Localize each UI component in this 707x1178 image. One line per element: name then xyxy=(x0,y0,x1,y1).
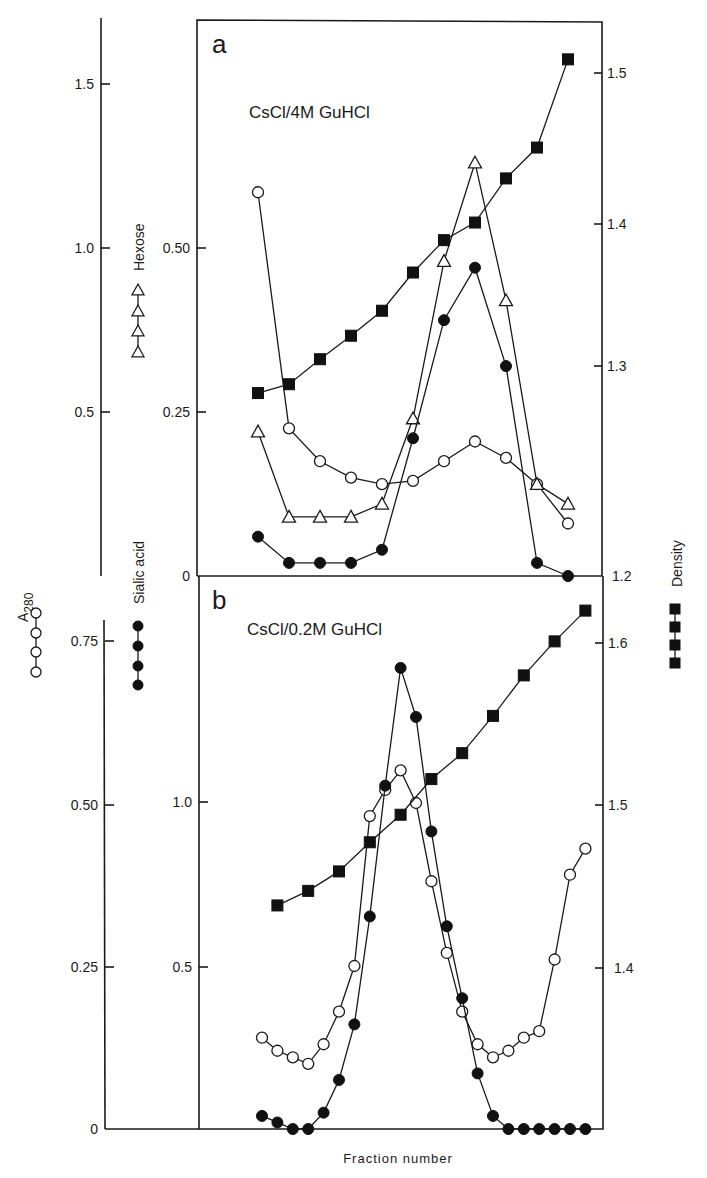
data-point xyxy=(469,156,482,168)
data-point xyxy=(334,1074,345,1085)
data-point xyxy=(272,900,283,911)
data-point xyxy=(457,993,468,1004)
panel-a-density-tick: 1.2 xyxy=(612,568,632,584)
panel-b-a280-tick: 0 xyxy=(90,1121,98,1137)
data-point xyxy=(488,1110,499,1121)
data-point xyxy=(303,1124,314,1135)
data-point xyxy=(315,557,326,568)
series-a280 xyxy=(257,765,591,1069)
data-point xyxy=(580,843,591,854)
data-point xyxy=(426,774,437,785)
data-point xyxy=(565,1124,576,1135)
data-point xyxy=(503,1045,514,1056)
panel-a-density-tick: 1.3 xyxy=(607,358,627,374)
data-point xyxy=(349,1019,360,1030)
data-point xyxy=(580,605,591,616)
panel-a-inner-tick: 0.50 xyxy=(163,240,190,256)
data-point xyxy=(426,826,437,837)
data-point xyxy=(457,748,468,759)
panel-a-inner-tick: 0 xyxy=(182,568,190,584)
data-point xyxy=(408,433,419,444)
x-axis-label: Fraction number xyxy=(343,1151,453,1166)
panel-b: 0.75 0.50 0.25 0 1.0 0.5 1.6 1.5 1.4 b C… xyxy=(71,576,634,1137)
data-point xyxy=(501,361,512,372)
data-point xyxy=(346,557,357,568)
panel-a-a280-tick: 1.0 xyxy=(75,240,95,256)
data-point xyxy=(395,662,406,673)
panel-b-density-tick: 1.6 xyxy=(608,635,628,651)
data-point xyxy=(377,544,388,555)
data-point xyxy=(549,636,560,647)
data-point xyxy=(518,1032,529,1043)
data-point xyxy=(284,423,295,434)
data-point xyxy=(470,436,481,447)
sialic-acid-label: Sialic acid xyxy=(131,541,147,604)
data-point xyxy=(272,1045,283,1056)
panel-b-sialic-tick: 0.5 xyxy=(173,959,193,975)
panel-b-a280-tick: 0.75 xyxy=(71,633,98,649)
panel-a-density-tick: 1.5 xyxy=(607,65,627,81)
data-point xyxy=(377,479,388,490)
data-point xyxy=(470,217,481,228)
data-point xyxy=(349,961,360,972)
data-point xyxy=(441,947,452,958)
data-point xyxy=(549,954,560,965)
data-point xyxy=(303,885,314,896)
density-label: Density xyxy=(669,540,685,587)
data-point xyxy=(534,1026,545,1037)
data-point xyxy=(408,475,419,486)
data-point xyxy=(470,262,481,273)
data-point xyxy=(377,305,388,316)
panel-b-frame xyxy=(199,576,603,1129)
data-point xyxy=(503,1124,514,1135)
data-point xyxy=(318,1039,329,1050)
data-point xyxy=(563,571,574,582)
legend-a280: A280 xyxy=(15,592,41,677)
legend-density: Density xyxy=(669,540,685,668)
figure: 1.5 1.0 0.5 0.50 0.25 0 1.5 1.4 1.3 1.2 … xyxy=(0,0,707,1178)
hexose-label: Hexose xyxy=(131,223,147,271)
data-point xyxy=(346,472,357,483)
data-point xyxy=(315,354,326,365)
panel-b-plot xyxy=(257,605,591,1134)
panel-b-density-tick: 1.5 xyxy=(608,797,628,813)
data-point xyxy=(532,142,543,153)
legend-hexose: Hexose xyxy=(131,223,147,356)
data-point xyxy=(501,173,512,184)
data-point xyxy=(549,1124,560,1135)
data-point xyxy=(284,557,295,568)
data-point xyxy=(439,456,450,467)
data-point xyxy=(253,531,264,542)
panel-b-letter: b xyxy=(212,585,226,615)
data-point xyxy=(380,780,391,791)
data-point xyxy=(441,921,452,932)
data-point xyxy=(315,456,326,467)
panel-a-letter: a xyxy=(212,29,227,59)
data-point xyxy=(532,557,543,568)
panel-a-a280-tick: 1.5 xyxy=(75,76,95,92)
data-point xyxy=(395,809,406,820)
data-point xyxy=(411,798,422,809)
data-point xyxy=(257,1110,268,1121)
data-point xyxy=(439,235,450,246)
panel-b-density-tick: 1.4 xyxy=(614,960,634,976)
data-point xyxy=(472,1039,483,1050)
panel-a-density-tick: 1.4 xyxy=(607,216,627,232)
data-point xyxy=(303,1058,314,1069)
data-point xyxy=(334,866,345,877)
data-point xyxy=(252,425,265,437)
data-point xyxy=(562,497,575,509)
series-density xyxy=(272,605,591,911)
data-point xyxy=(501,452,512,463)
panel-b-outer-left-axis xyxy=(104,620,105,1129)
panel-a-condition: CsCl/4M GuHCl xyxy=(249,103,370,122)
data-point xyxy=(426,876,437,887)
data-point xyxy=(287,1124,298,1135)
panel-b-condition: CsCl/0.2M GuHCl xyxy=(247,620,382,639)
data-point xyxy=(253,187,264,198)
data-point xyxy=(411,711,422,722)
data-point xyxy=(580,1124,591,1135)
data-point xyxy=(565,869,576,880)
data-point xyxy=(364,837,375,848)
data-point xyxy=(563,54,574,65)
